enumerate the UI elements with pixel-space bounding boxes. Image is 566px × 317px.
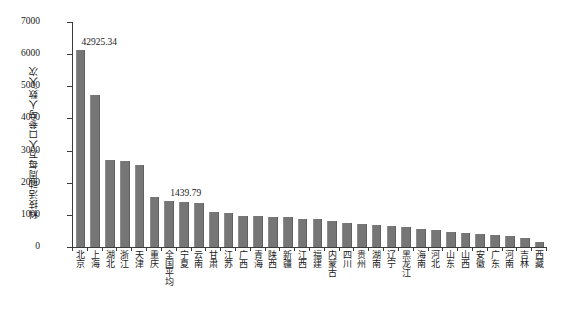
bar (253, 216, 263, 247)
bar (268, 217, 278, 247)
x-tick-label: 新疆 (281, 250, 293, 268)
bar (164, 201, 174, 247)
x-tick-label: 黑龙江 (399, 250, 411, 277)
bar (475, 234, 485, 247)
x-tick-label: 四川 (340, 250, 352, 268)
bar (342, 223, 352, 247)
y-tick-label: 0 (0, 241, 40, 251)
x-tick-label: 全国平均 (162, 250, 174, 286)
bar (387, 226, 397, 247)
y-tick-label: 5000 (0, 80, 40, 90)
x-tick-label: 湖北 (103, 250, 115, 268)
y-tick-label: 2000 (0, 177, 40, 187)
x-tick-label: 北京 (73, 250, 85, 268)
x-tick-label: 宁夏 (177, 250, 189, 268)
bar (357, 224, 367, 247)
x-tick-label: 云南 (192, 250, 204, 268)
x-tick (546, 247, 547, 251)
bar (120, 161, 130, 247)
x-tick-label: 上海 (88, 250, 100, 268)
bar (490, 235, 500, 247)
x-tick-label: 重庆 (147, 250, 159, 268)
x-tick-label: 辽宁 (384, 250, 396, 268)
x-tick-label: 山西 (459, 250, 471, 268)
x-tick-label: 江苏 (222, 250, 234, 268)
bar (416, 229, 426, 247)
bar (401, 227, 411, 247)
x-tick-label: 广西 (236, 250, 248, 268)
bar (505, 236, 515, 247)
x-tick-label: 山东 (444, 250, 456, 268)
bar (90, 95, 100, 247)
value-label: 42925.34 (81, 37, 117, 47)
bar (105, 160, 115, 247)
y-tick-label: 3000 (0, 145, 40, 155)
bar (238, 216, 248, 247)
x-tick-label: 吉林 (518, 250, 530, 268)
bar (431, 230, 441, 247)
bar (179, 202, 189, 247)
x-tick-label: 河南 (503, 250, 515, 268)
bar (150, 197, 160, 247)
x-tick-label: 福建 (310, 250, 322, 268)
bar (313, 219, 323, 247)
x-axis-tick-labels: 北京上海湖北浙江天津重庆全国平均宁夏云南甘肃江苏广西青海陕西新疆江西福建内蒙古四… (72, 250, 546, 314)
bar-series (72, 22, 546, 247)
bar (283, 217, 293, 247)
x-tick-label: 青海 (251, 250, 263, 268)
bar (520, 238, 530, 247)
y-tick-label: 1000 (0, 209, 40, 219)
bar (327, 221, 337, 247)
bar (209, 212, 219, 247)
x-tick-label: 西藏 (533, 250, 545, 268)
x-tick-label: 广东 (488, 250, 500, 268)
bar (135, 165, 145, 247)
x-tick-label: 安徽 (473, 250, 485, 268)
x-tick-label: 陕西 (266, 250, 278, 268)
bar (372, 225, 382, 247)
x-tick-label: 湖南 (370, 250, 382, 268)
plot-area: 01000200030004000500060007000 42925.3414… (72, 22, 546, 247)
x-tick-label: 河北 (429, 250, 441, 268)
bar (446, 232, 456, 247)
x-tick-label: 内蒙古 (325, 250, 337, 277)
bar (535, 242, 545, 247)
x-tick-label: 天津 (133, 250, 145, 268)
x-tick-label: 甘肃 (207, 250, 219, 268)
bar (461, 233, 471, 247)
x-tick-label: 贵州 (355, 250, 367, 268)
chart-figure: 科技活动周每万人口参与人数/人次 01000200030004000500060… (0, 0, 566, 317)
x-tick-label: 江西 (296, 250, 308, 268)
y-tick-label: 6000 (0, 48, 40, 58)
bar (298, 219, 308, 247)
x-tick-label: 浙江 (118, 250, 130, 268)
value-label: 1439.79 (170, 188, 201, 198)
y-tick-label: 4000 (0, 112, 40, 122)
y-tick-label: 7000 (0, 16, 40, 26)
bar (194, 203, 204, 247)
bar (76, 50, 86, 247)
x-tick-label: 海南 (414, 250, 426, 268)
bar (224, 213, 234, 247)
